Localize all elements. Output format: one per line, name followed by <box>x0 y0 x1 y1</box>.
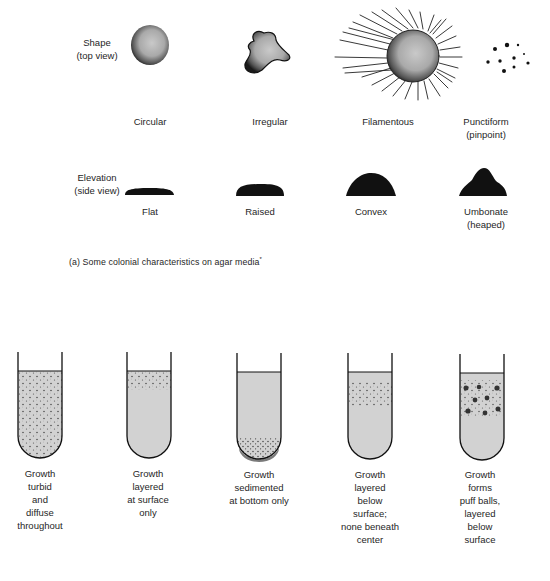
caption-footnote-mark: * <box>260 256 262 262</box>
tube-label-3-line: Growth <box>209 468 309 481</box>
tube-label-5-line: surface <box>440 533 520 546</box>
label-umbonate-name: Umbonate <box>446 205 526 218</box>
tube-label-4-line: below <box>325 494 415 507</box>
label-circular: Circular <box>110 115 190 128</box>
elevation-row-label: Elevation (side view) <box>62 171 132 197</box>
tube-label-4-line: center <box>325 533 415 546</box>
tube-label-4-line: Growth <box>325 468 415 481</box>
tube-layered-below-surface <box>348 353 392 459</box>
tube-turbid-throughout <box>18 352 62 458</box>
tube-label-2: Growth layered at surface only <box>108 467 188 519</box>
tube-label-5-line: layered <box>440 507 520 520</box>
irregular-colony-icon <box>245 31 290 72</box>
label-umbonate: Umbonate (heaped) <box>446 205 526 231</box>
tube-label-5: Growth forms puff balls, layered below s… <box>440 468 520 546</box>
tube-label-1-line: throughout <box>0 519 80 532</box>
label-raised: Raised <box>220 205 300 218</box>
shape-row-label: Shape (top view) <box>62 36 132 62</box>
convex-elevation-icon <box>346 173 396 196</box>
tube-label-5-line: puff balls, <box>440 494 520 507</box>
tube-label-1-line: and <box>0 493 80 506</box>
tube-label-3-line: sedimented <box>209 481 309 494</box>
flat-elevation-icon <box>125 188 174 195</box>
tube-label-4-line: layered <box>325 481 415 494</box>
filamentous-colony-icon <box>335 8 462 100</box>
tube-label-1-line: diffuse <box>0 506 80 519</box>
tube-label-1: Growth turbid and diffuse throughout <box>0 467 80 532</box>
label-filamentous: Filamentous <box>348 115 428 128</box>
tube-puff-balls <box>460 354 504 460</box>
label-umbonate-sub: (heaped) <box>446 218 526 231</box>
punctiform-colony-icon <box>486 43 529 73</box>
tube-label-2-line: at surface <box>108 493 188 506</box>
label-irregular: Irregular <box>230 115 310 128</box>
tube-label-2-line: Growth <box>108 467 188 480</box>
raised-elevation-icon <box>236 184 284 196</box>
tube-label-3-line: at bottom only <box>209 494 309 507</box>
circular-colony-icon <box>131 25 169 65</box>
tube-label-1-line: Growth <box>0 467 80 480</box>
label-punctiform-name: Punctiform <box>446 115 526 128</box>
shape-row-label-line2: (top view) <box>62 49 132 62</box>
tube-label-4-line: none beneath <box>325 520 415 533</box>
tube-layered-at-surface <box>127 352 171 458</box>
elevation-row-label-line1: Elevation <box>62 171 132 184</box>
label-flat: Flat <box>110 205 190 218</box>
tube-label-2-line: only <box>108 506 188 519</box>
figure-caption-a: (a) Some colonial characteristics on aga… <box>69 256 262 267</box>
tube-label-1-line: turbid <box>0 480 80 493</box>
umbonate-elevation-icon <box>459 168 507 196</box>
tube-label-4: Growth layered below surface; none benea… <box>325 468 415 546</box>
label-punctiform-sub: (pinpoint) <box>446 128 526 141</box>
tube-label-5-line: Growth <box>440 468 520 481</box>
tube-label-5-line: below <box>440 520 520 533</box>
elevation-row-label-line2: (side view) <box>62 184 132 197</box>
caption-text: (a) Some colonial characteristics on aga… <box>69 257 260 267</box>
tube-label-3: Growth sedimented at bottom only <box>209 468 309 507</box>
tube-label-2-line: layered <box>108 480 188 493</box>
label-punctiform: Punctiform (pinpoint) <box>446 115 526 141</box>
tube-label-4-line: surface; <box>325 507 415 520</box>
label-convex: Convex <box>331 205 411 218</box>
shape-row-label-line1: Shape <box>62 36 132 49</box>
tube-sedimented-at-bottom <box>237 353 281 462</box>
tube-label-5-line: forms <box>440 481 520 494</box>
